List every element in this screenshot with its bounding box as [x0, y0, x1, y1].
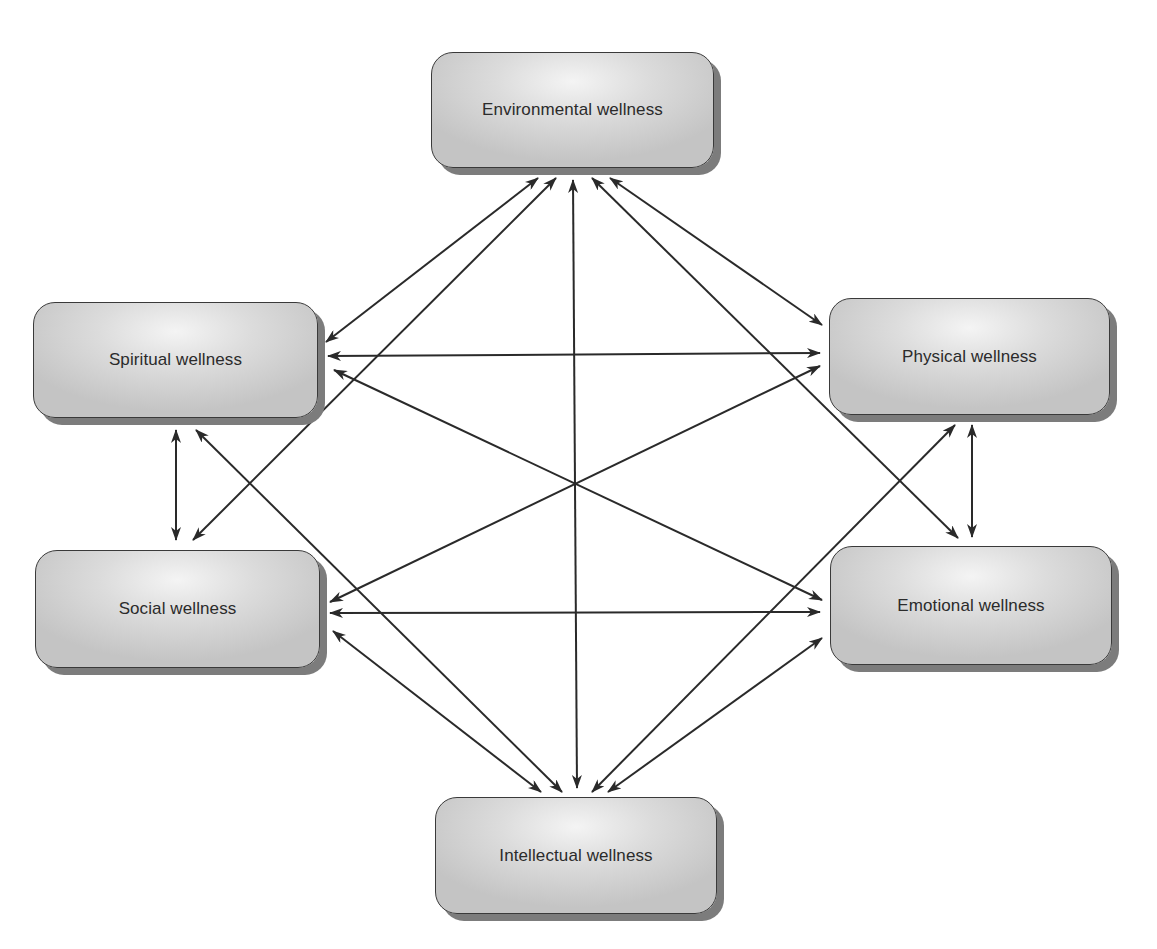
node-intellectual-wellness: Intellectual wellness [435, 797, 717, 914]
node-label: Social wellness [119, 599, 237, 619]
node-environmental-wellness: Environmental wellness [431, 52, 714, 168]
arrow-emotional-intellectual [608, 638, 822, 792]
node-label: Spiritual wellness [109, 350, 242, 370]
node-label: Environmental wellness [482, 100, 663, 120]
node-social-wellness: Social wellness [35, 550, 320, 668]
node-emotional-wellness: Emotional wellness [830, 546, 1112, 665]
arrow-social-intellectual [333, 631, 541, 792]
arrow-environmental-physical [610, 178, 822, 325]
node-label: Physical wellness [902, 347, 1037, 367]
node-label: Emotional wellness [897, 596, 1044, 616]
node-label: Intellectual wellness [499, 846, 652, 866]
node-physical-wellness: Physical wellness [829, 298, 1110, 415]
wellness-diagram: Environmental wellness Spiritual wellnes… [0, 0, 1157, 949]
arrow-environmental-spiritual [326, 178, 538, 342]
node-spiritual-wellness: Spiritual wellness [33, 302, 318, 418]
arrow-social-emotional [330, 612, 820, 613]
